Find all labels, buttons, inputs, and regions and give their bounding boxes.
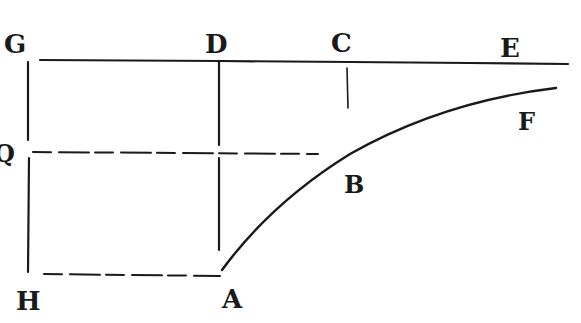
line-vertical-GH [28,62,29,272]
line-dashed-HA [44,274,220,276]
label-F: F [518,107,535,136]
curve-ABF [222,88,556,270]
line-tick-C [347,68,348,108]
label-G: G [4,29,26,59]
label-Q: Q [0,139,15,168]
label-C: C [331,28,352,58]
label-B: B [344,170,364,199]
line-top-GE [40,60,568,64]
curve-start-dash [222,257,232,270]
label-D: D [205,29,228,59]
geometric-figure: G D C E F Q B H A [0,0,581,323]
label-A: A [221,284,243,314]
label-E: E [500,33,520,63]
line-dashed-QB [33,152,318,154]
label-H: H [16,286,41,316]
